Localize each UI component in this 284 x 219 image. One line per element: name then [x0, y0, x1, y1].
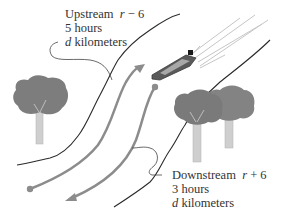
upstream-label: Upstream r − 6 5 hours d kilometers [65, 7, 144, 49]
upstream-distance-variable: d [65, 35, 71, 49]
upstream-rate-variable: r [120, 7, 125, 21]
downstream-time: 3 hours [172, 182, 267, 196]
river-diagram: Upstream r − 6 5 hours d kilometers Down… [0, 0, 284, 219]
upstream-distance-unit: kilometers [74, 35, 127, 49]
motorboat-icon [152, 50, 196, 80]
upstream-time: 5 hours [65, 21, 144, 35]
downstream-rate-offset: + 6 [250, 168, 266, 182]
downstream-distance-variable: d [172, 196, 178, 210]
downstream-title: Downstream [172, 168, 236, 182]
upstream-rate-offset: − 6 [128, 7, 144, 21]
tree-left-icon [13, 75, 68, 144]
downstream-label: Downstream r + 6 3 hours d kilometers [172, 168, 267, 210]
tree-right-front-icon [174, 90, 223, 163]
downstream-distance-unit: kilometers [181, 196, 234, 210]
upstream-title: Upstream [65, 7, 114, 21]
downstream-arrow [65, 84, 158, 201]
downstream-rate-variable: r [242, 168, 247, 182]
